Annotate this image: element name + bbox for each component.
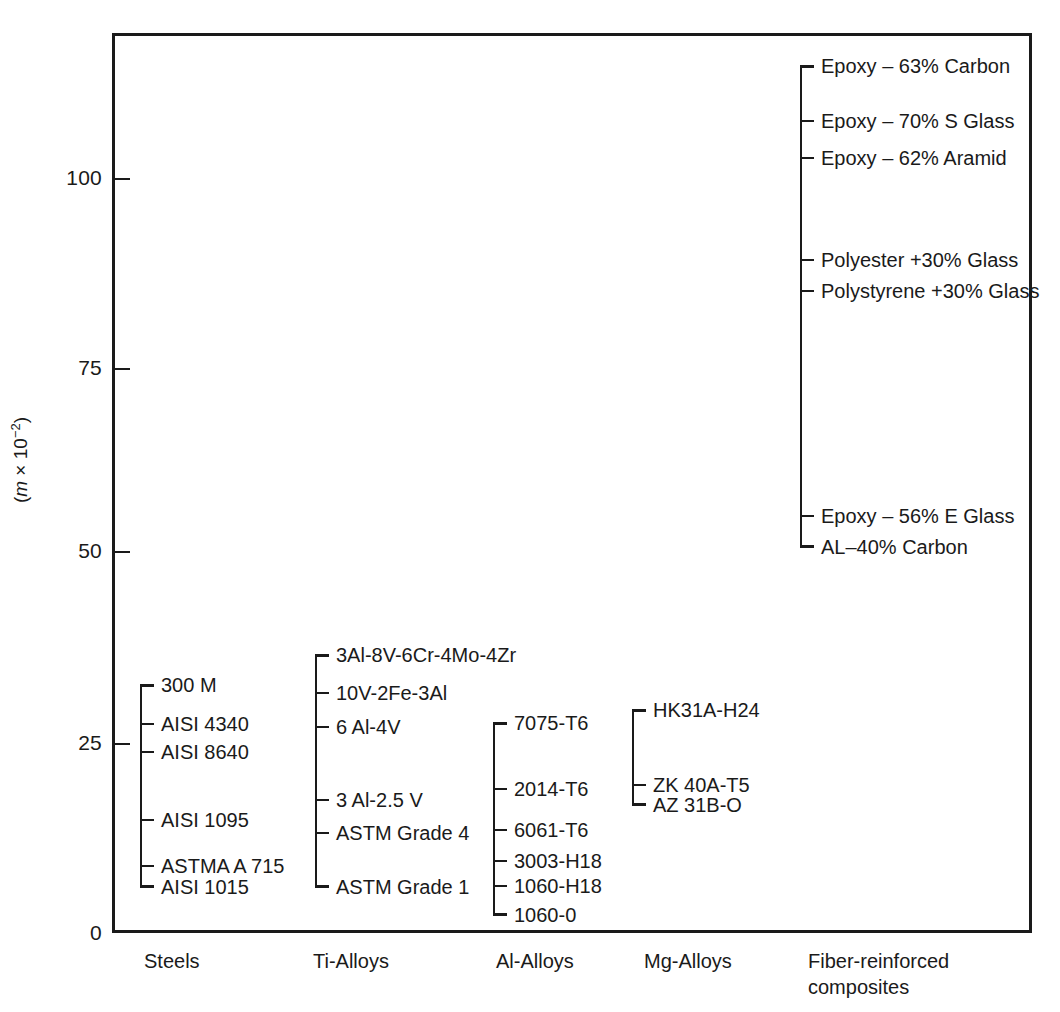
y-tick-50 xyxy=(112,551,130,553)
y-tick-label-100: 100 xyxy=(42,167,102,188)
y-axis-units-open: ( xyxy=(10,497,31,503)
y-axis-units-times: × 10 xyxy=(10,438,31,481)
y-tick-100 xyxy=(112,178,130,180)
bracket-mg-alloys xyxy=(632,710,646,805)
tick-marker xyxy=(315,886,329,888)
tick-marker xyxy=(140,723,154,725)
tick-marker xyxy=(140,865,154,867)
tick-marker xyxy=(800,65,814,67)
tick-marker xyxy=(493,722,507,724)
tick-marker xyxy=(800,290,814,292)
tick-marker xyxy=(315,692,329,694)
tick-marker xyxy=(140,886,154,888)
tick-marker xyxy=(800,259,814,261)
tick-marker xyxy=(800,120,814,122)
tick-marker xyxy=(493,860,507,862)
y-tick-75 xyxy=(112,368,130,370)
tick-marker xyxy=(315,799,329,801)
tick-marker xyxy=(632,804,646,806)
y-tick-label-50: 50 xyxy=(42,540,102,561)
y-axis-units-close: ) xyxy=(10,417,31,423)
tick-marker xyxy=(140,751,154,753)
y-tick-label-75: 75 xyxy=(42,357,102,378)
tick-marker xyxy=(140,684,154,686)
y-tick-25 xyxy=(112,743,130,745)
tick-marker xyxy=(800,546,814,548)
tick-marker xyxy=(140,819,154,821)
bracket-steels xyxy=(140,685,154,887)
x-axis-label-fiber-reinforced-composites: Fiber-reinforced composites xyxy=(808,948,949,1000)
tick-marker xyxy=(493,788,507,790)
x-axis-label-ti-alloys: Ti-Alloys xyxy=(313,948,389,974)
tick-marker xyxy=(493,829,507,831)
y-tick-label-25: 25 xyxy=(42,732,102,753)
x-axis-label-mg-alloys: Mg-Alloys xyxy=(644,948,732,974)
tick-marker xyxy=(493,885,507,887)
tick-marker xyxy=(800,515,814,517)
tick-marker xyxy=(315,654,329,656)
tick-marker xyxy=(800,157,814,159)
bracket-ti-alloys xyxy=(315,655,329,887)
y-axis-units-exponent: −2 xyxy=(8,423,23,438)
tick-marker xyxy=(632,709,646,711)
tick-marker xyxy=(632,784,646,786)
tick-marker xyxy=(315,726,329,728)
bracket-fiber-reinforced-composites xyxy=(800,66,814,547)
x-axis-label-steels: Steels xyxy=(144,948,200,974)
y-axis-units-m: m xyxy=(10,481,31,497)
x-axis-label-al-alloys: Al-Alloys xyxy=(496,948,574,974)
tick-marker xyxy=(315,832,329,834)
y-tick-label-0: 0 xyxy=(42,922,102,943)
tick-marker xyxy=(493,914,507,916)
y-axis-units: (m × 10−2) xyxy=(8,380,32,540)
tensile-strength-density-chart: 100 75 50 25 0 tensile strength density … xyxy=(0,0,1060,1012)
